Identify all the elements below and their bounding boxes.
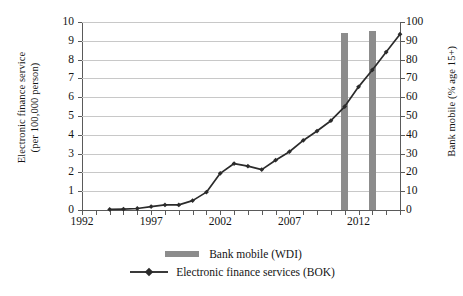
data-point-marker: [121, 207, 126, 212]
data-point-marker: [107, 207, 112, 212]
bar-swatch-icon: [165, 251, 199, 257]
legend-label-bank-mobile: Bank mobile (WDI): [205, 245, 302, 263]
legend-item-bank-mobile: Bank mobile (WDI): [0, 244, 463, 262]
chart-figure: Electronic finance service (per 100,000 …: [0, 0, 463, 296]
diamond-marker-icon: [145, 267, 153, 275]
data-point-marker: [149, 204, 154, 209]
data-point-marker: [135, 206, 140, 211]
line-path: [110, 34, 400, 209]
legend-label-electronic-finance: Electronic finance services (BOK): [172, 263, 335, 281]
legend-swatch-line: [128, 263, 172, 281]
line-markers: [107, 32, 402, 212]
data-point-marker: [246, 164, 251, 169]
data-point-marker: [163, 203, 168, 208]
data-point-marker: [176, 203, 181, 208]
chart-legend: Bank mobile (WDI) Electronic finance ser…: [0, 244, 463, 280]
legend-item-electronic-finance: Electronic finance services (BOK): [0, 262, 463, 280]
legend-swatch-bar: [161, 245, 205, 263]
